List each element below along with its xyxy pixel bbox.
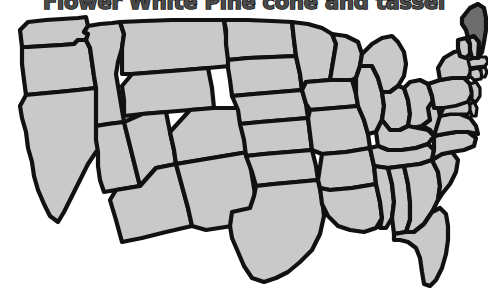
page-title-clip: Flower White Pine cone and tassel [0,0,488,14]
state-delaware[interactable] [470,102,477,116]
state-north-dakota[interactable] [224,20,296,60]
map-svg [0,0,488,304]
state-new-jersey[interactable] [470,82,480,102]
page-title: Flower White Pine cone and tassel [0,0,488,14]
state-louisiana[interactable] [320,184,382,232]
united-states-map [0,0,488,304]
state-california[interactable] [20,88,104,222]
state-rhode-island[interactable] [481,67,487,77]
state-montana[interactable] [120,20,230,74]
state-oregon[interactable] [22,40,96,95]
page-root: Flower White Pine cone and tassel [0,0,488,304]
